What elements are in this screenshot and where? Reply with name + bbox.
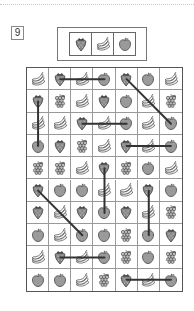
grid-cell[interactable]: [71, 224, 93, 246]
banana-icon: [163, 160, 179, 176]
strawberry-icon: [30, 93, 46, 109]
grid-cell[interactable]: [27, 224, 49, 246]
grid-cell[interactable]: [49, 113, 71, 135]
grid-cell[interactable]: [93, 246, 115, 268]
grapes-icon: [163, 249, 179, 265]
grid-cell[interactable]: [27, 269, 49, 291]
grid-cell[interactable]: [49, 202, 71, 224]
grid-cell[interactable]: [71, 269, 93, 291]
page-top-dotted-divider: [0, 4, 194, 5]
grid-cell[interactable]: [116, 157, 138, 179]
strawberry-icon: [118, 138, 134, 154]
grid-cell[interactable]: [49, 180, 71, 202]
grid-cell[interactable]: [71, 90, 93, 112]
grid-cell[interactable]: [138, 113, 160, 135]
grid-cell[interactable]: [49, 68, 71, 90]
grid-cell[interactable]: [160, 180, 182, 202]
grid-cell[interactable]: [71, 202, 93, 224]
grid-cell[interactable]: [116, 180, 138, 202]
grid-cell[interactable]: [49, 135, 71, 157]
grid-cell[interactable]: [93, 180, 115, 202]
grid-cell[interactable]: [93, 157, 115, 179]
grid-cell[interactable]: [27, 202, 49, 224]
apple-icon: [96, 227, 112, 243]
apple-icon: [96, 71, 112, 87]
grid-cell[interactable]: [71, 180, 93, 202]
grid-cell[interactable]: [160, 68, 182, 90]
grid-cell[interactable]: [116, 113, 138, 135]
grid-cell[interactable]: [160, 224, 182, 246]
grid-cell[interactable]: [160, 246, 182, 268]
grid-cell[interactable]: [160, 269, 182, 291]
grid-cell[interactable]: [27, 157, 49, 179]
grid-cell[interactable]: [160, 202, 182, 224]
grid-cell[interactable]: [93, 90, 115, 112]
grid-cell[interactable]: [116, 269, 138, 291]
banana-icon: [74, 249, 90, 265]
grid-cell[interactable]: [116, 135, 138, 157]
grid-cell[interactable]: [138, 135, 160, 157]
grid-cell[interactable]: [93, 135, 115, 157]
grid-cell[interactable]: [93, 113, 115, 135]
grid-cell[interactable]: [71, 157, 93, 179]
banana-icon: [96, 115, 112, 131]
grid-cell[interactable]: [49, 90, 71, 112]
grid-cell[interactable]: [93, 68, 115, 90]
banana-icon: [30, 249, 46, 265]
banana-icon: [52, 204, 68, 220]
grid-cell[interactable]: [138, 90, 160, 112]
grid-cell[interactable]: [138, 246, 160, 268]
grid-cell[interactable]: [27, 180, 49, 202]
grid-cell[interactable]: [160, 90, 182, 112]
banana-icon: [140, 115, 156, 131]
strawberry-icon: [73, 36, 89, 52]
grid-cell[interactable]: [27, 90, 49, 112]
grid-cell[interactable]: [49, 246, 71, 268]
grid-cell[interactable]: [93, 202, 115, 224]
grapes-icon: [118, 227, 134, 243]
grid-cell[interactable]: [27, 246, 49, 268]
banana-icon: [140, 204, 156, 220]
grid-cell[interactable]: [160, 157, 182, 179]
grid-cell[interactable]: [93, 269, 115, 291]
grid-cell[interactable]: [138, 202, 160, 224]
apple-icon: [30, 272, 46, 288]
grid-cell[interactable]: [49, 269, 71, 291]
banana-icon: [140, 93, 156, 109]
key-cell-apple: [114, 33, 135, 55]
grid-cell[interactable]: [138, 180, 160, 202]
grid-cell[interactable]: [49, 157, 71, 179]
grid-cell[interactable]: [116, 90, 138, 112]
grid-cell[interactable]: [116, 224, 138, 246]
grid-cell[interactable]: [138, 68, 160, 90]
key-cell-banana: [92, 33, 114, 55]
grid-cell[interactable]: [116, 246, 138, 268]
grid-cell[interactable]: [27, 68, 49, 90]
grid-cell[interactable]: [138, 157, 160, 179]
grid-cell[interactable]: [27, 113, 49, 135]
apple-icon: [163, 272, 179, 288]
grid-cell[interactable]: [93, 224, 115, 246]
grid-cell[interactable]: [49, 224, 71, 246]
grid-cell[interactable]: [27, 135, 49, 157]
grid-cell[interactable]: [138, 269, 160, 291]
grid-cell[interactable]: [71, 246, 93, 268]
strawberry-icon: [96, 93, 112, 109]
strawberry-icon: [30, 182, 46, 198]
banana-icon: [118, 182, 134, 198]
banana-icon: [30, 115, 46, 131]
grid-cell[interactable]: [71, 68, 93, 90]
key-sequence-box: [57, 27, 147, 61]
apple-icon: [140, 227, 156, 243]
grid-cell[interactable]: [71, 135, 93, 157]
grid-cell[interactable]: [160, 135, 182, 157]
banana-icon: [96, 138, 112, 154]
grid-cell[interactable]: [116, 202, 138, 224]
apple-icon: [74, 227, 90, 243]
apple-icon: [118, 115, 134, 131]
grid-cell[interactable]: [116, 68, 138, 90]
grid-cell[interactable]: [138, 224, 160, 246]
grid-cell[interactable]: [160, 113, 182, 135]
banana-icon: [74, 272, 90, 288]
grid-cell[interactable]: [71, 113, 93, 135]
